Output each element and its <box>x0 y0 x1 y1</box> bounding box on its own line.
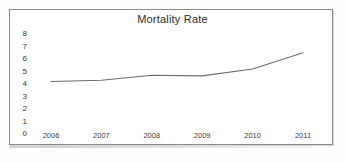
series-polyline <box>51 53 303 82</box>
scan-edge-shadow <box>10 146 332 148</box>
x-axis-tick-label: 2006 <box>31 131 71 141</box>
x-axis-tick-label: 2008 <box>132 131 172 141</box>
y-axis-tick-label: 6 <box>13 55 27 63</box>
x-axis-tick-label: 2007 <box>81 131 121 141</box>
y-axis-tick-label: 7 <box>13 43 27 51</box>
chart-title: Mortality Rate <box>0 13 345 25</box>
x-axis: 200620072008200920102011 <box>29 131 321 143</box>
y-axis-tick-label: 4 <box>13 80 27 88</box>
y-axis-tick-label: 3 <box>13 93 27 101</box>
line-series-mortality-rate <box>29 34 321 134</box>
y-axis-tick-label: 0 <box>13 130 27 138</box>
y-axis-tick-label: 2 <box>13 105 27 113</box>
x-axis-tick-label: 2011 <box>283 131 323 141</box>
x-axis-tick-label: 2009 <box>182 131 222 141</box>
y-axis-tick-label: 8 <box>13 30 27 38</box>
mortality-rate-chart: Mortality Rate 876543210 200620072008200… <box>0 0 345 162</box>
plot-area <box>29 34 321 134</box>
y-axis-tick-label: 5 <box>13 68 27 76</box>
x-axis-tick-label: 2010 <box>233 131 273 141</box>
y-axis-tick-label: 1 <box>13 118 27 126</box>
y-axis: 876543210 <box>13 33 27 134</box>
